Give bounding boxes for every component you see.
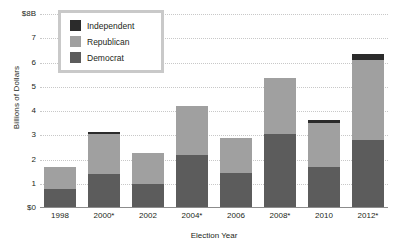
legend-item[interactable]: Independent — [70, 20, 161, 31]
bar-column[interactable] — [220, 14, 252, 208]
y-tick-label: $0 — [27, 204, 36, 212]
bar-segment-republican[interactable] — [220, 138, 252, 173]
legend-swatch-icon — [70, 36, 81, 47]
x-tick-label: 2000* — [88, 211, 120, 220]
legend-item[interactable]: Democrat — [70, 52, 161, 63]
x-tick-label: 2012* — [352, 211, 384, 220]
y-tick-label: 4 — [32, 107, 36, 115]
legend-item[interactable]: Republican — [70, 36, 161, 47]
bar-column[interactable] — [264, 14, 296, 208]
bar-segment-democrat[interactable] — [88, 174, 120, 208]
legend-item-label: Republican — [87, 37, 130, 47]
bar-segment-republican[interactable] — [352, 60, 384, 140]
y-tick-label: 1 — [32, 180, 36, 188]
bar-column[interactable] — [176, 14, 208, 208]
bar-segment-democrat[interactable] — [308, 167, 340, 208]
x-tick-label: 1998 — [44, 211, 76, 220]
bar-segment-republican[interactable] — [44, 167, 76, 189]
bar-segment-republican[interactable] — [176, 106, 208, 155]
bar-segment-democrat[interactable] — [352, 140, 384, 208]
y-tick-label: 2 — [32, 156, 36, 164]
x-axis-tick-labels: 19982000*20022004*20062008*20102012* — [40, 211, 388, 220]
bar-segment-republican[interactable] — [264, 78, 296, 134]
bar-segment-democrat[interactable] — [132, 184, 164, 208]
x-tick-label: 2010 — [308, 211, 340, 220]
bar-column[interactable] — [308, 14, 340, 208]
bar-segment-democrat[interactable] — [176, 155, 208, 208]
x-tick-label: 2002 — [132, 211, 164, 220]
bar-segment-republican[interactable] — [308, 123, 340, 167]
y-tick-label: 3 — [32, 131, 36, 139]
legend-swatch-icon — [70, 52, 81, 63]
legend-swatch-icon — [70, 20, 81, 31]
x-tick-label: 2006 — [220, 211, 252, 220]
stacked-bar-chart: Billions of Dollars $01234567$8B 1998200… — [0, 0, 394, 251]
bar-column[interactable] — [352, 14, 384, 208]
y-tick-label: 5 — [32, 83, 36, 91]
bar-segment-republican[interactable] — [132, 153, 164, 183]
y-tick-label: 6 — [32, 59, 36, 67]
y-tick-label: $8B — [22, 10, 36, 18]
bar-segment-democrat[interactable] — [220, 173, 252, 208]
y-axis-tick-labels: $01234567$8B — [0, 0, 40, 251]
x-axis-line — [40, 207, 388, 208]
bar-segment-democrat[interactable] — [44, 189, 76, 208]
legend-item-label: Democrat — [87, 53, 124, 63]
chart-legend: IndependentRepublicanDemocrat — [58, 10, 164, 73]
legend-item-label: Independent — [87, 21, 134, 31]
x-tick-label: 2008* — [264, 211, 296, 220]
bar-segment-democrat[interactable] — [264, 134, 296, 208]
bar-segment-republican[interactable] — [88, 134, 120, 174]
x-axis-title: Election Year — [40, 231, 388, 240]
y-tick-label: 7 — [32, 34, 36, 42]
x-tick-label: 2004* — [176, 211, 208, 220]
